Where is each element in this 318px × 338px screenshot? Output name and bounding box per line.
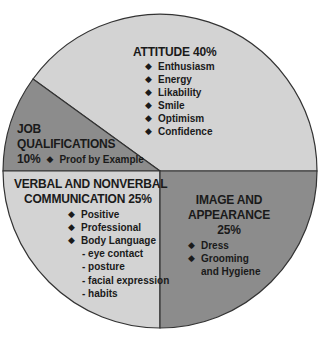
- list-subitem: - habits: [68, 287, 169, 300]
- list-subitem: - posture: [68, 260, 169, 273]
- verbal-nonverbal-label: VERBAL AND NONVERBAL COMMUNICATION 25% ◆…: [14, 177, 169, 300]
- job-qualifications-label: JOB QUALIFICATIONS 10% ◆ Proof by Exampl…: [17, 122, 144, 167]
- list-item: ◆Confidence: [145, 125, 216, 138]
- diamond-bullet-icon: ◆: [188, 252, 196, 265]
- diamond-bullet-icon: ◆: [68, 221, 76, 234]
- list-item: ◆Positive: [68, 208, 169, 221]
- list-item: ◆Enthusiasm: [145, 60, 216, 73]
- diamond-bullet-icon: ◆: [145, 60, 153, 73]
- diamond-bullet-icon: ◆: [145, 73, 153, 86]
- list-item: ◆Grooming: [188, 252, 276, 265]
- list-item: ◆Body Language: [68, 234, 169, 247]
- diamond-bullet-icon: ◆: [145, 112, 153, 125]
- attitude-label: ATTITUDE 40% ◆Enthusiasm ◆Energy ◆Likabi…: [133, 45, 216, 138]
- list-subitem: - facial expression: [68, 274, 169, 287]
- list-item: ◆Optimism: [145, 112, 216, 125]
- diamond-bullet-icon: ◆: [46, 153, 54, 166]
- diamond-bullet-icon: ◆: [145, 99, 153, 112]
- image-appearance-label: IMAGE AND APPEARANCE 25% ◆Dress ◆Groomin…: [182, 193, 276, 278]
- list-subitem: - eye contact: [68, 247, 169, 260]
- attitude-title: ATTITUDE 40%: [133, 45, 216, 60]
- diamond-bullet-icon: ◆: [145, 86, 153, 99]
- diamond-bullet-icon: ◆: [145, 125, 153, 138]
- list-item: ◆Energy: [145, 73, 216, 86]
- diamond-bullet-icon: ◆: [188, 239, 196, 252]
- list-item: ◆Dress: [188, 239, 276, 252]
- list-item: ◆Professional: [68, 221, 169, 234]
- diamond-bullet-icon: ◆: [68, 234, 76, 247]
- list-item: ◆Smile: [145, 99, 216, 112]
- diamond-bullet-icon: ◆: [68, 208, 76, 221]
- list-item: ◆Likability: [145, 86, 216, 99]
